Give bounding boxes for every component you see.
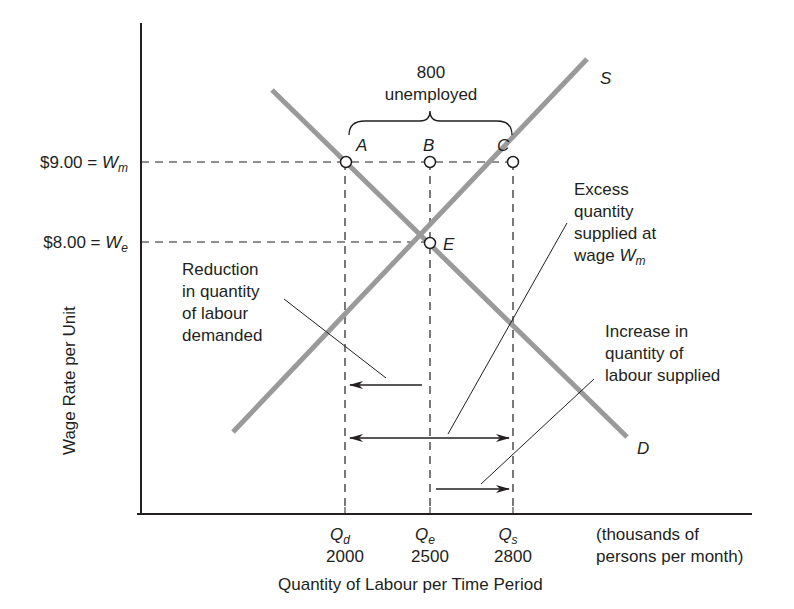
label-c: C xyxy=(497,136,510,155)
x-unit-note-line1: (thousands of xyxy=(596,525,699,544)
label-d: D xyxy=(637,439,649,458)
unemployed-brace xyxy=(349,111,512,135)
x-tick-qs-value: 2800 xyxy=(494,547,532,566)
unemployed-label: unemployed xyxy=(385,85,478,104)
supply-curve xyxy=(233,59,587,432)
excess-leader xyxy=(448,223,567,434)
label-a: A xyxy=(355,136,367,155)
reduction-line4: demanded xyxy=(182,326,262,345)
increase-leader xyxy=(481,379,594,484)
y-tick-we: $8.00 = We xyxy=(43,233,128,255)
labour-market-chart: A B C E S D 800 unemployed $9.00 = Wm $8… xyxy=(0,0,794,609)
increase-line1: Increase in xyxy=(605,322,688,341)
reduction-leader xyxy=(284,299,386,378)
y-tick-wm: $9.00 = Wm xyxy=(40,153,128,175)
x-axis-label: Quantity of Labour per Time Period xyxy=(278,575,543,594)
reduction-line1: Reduction xyxy=(182,260,259,279)
label-e: E xyxy=(443,235,455,254)
point-c xyxy=(508,157,519,168)
x-unit-note-line2: persons per month) xyxy=(596,547,743,566)
x-tick-qs-symbol: Qs xyxy=(498,525,517,547)
excess-line4: wage Wm xyxy=(573,246,645,268)
point-a xyxy=(341,157,352,168)
label-b: B xyxy=(423,136,434,155)
label-s: S xyxy=(600,69,612,88)
increase-line3: labour supplied xyxy=(605,366,720,385)
point-e xyxy=(425,238,436,249)
excess-line2: quantity xyxy=(574,202,634,221)
x-tick-qd-value: 2000 xyxy=(326,547,364,566)
y-axis-label: Wage Rate per Unit xyxy=(60,306,79,455)
x-tick-qe-value: 2500 xyxy=(411,547,449,566)
reduction-line2: in quantity xyxy=(182,282,260,301)
unemployed-count: 800 xyxy=(417,63,445,82)
x-tick-qd-symbol: Qd xyxy=(330,525,350,547)
point-b xyxy=(425,157,436,168)
excess-line1: Excess xyxy=(574,180,629,199)
increase-line2: quantity of xyxy=(605,344,684,363)
excess-line3: supplied at xyxy=(574,224,657,243)
x-tick-qe-symbol: Qe xyxy=(415,525,435,547)
reduction-line3: of labour xyxy=(182,304,248,323)
